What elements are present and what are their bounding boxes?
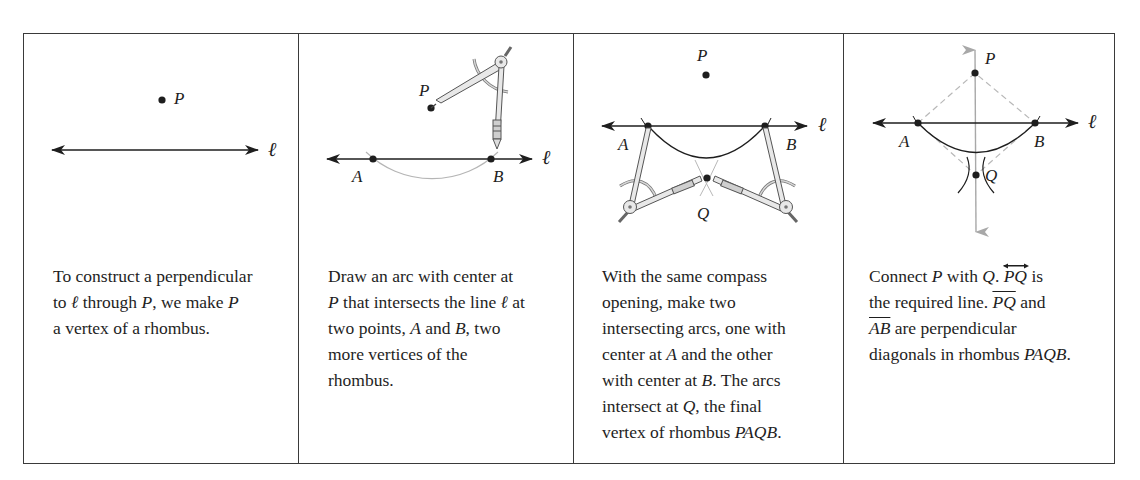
label-q: Q bbox=[697, 204, 709, 223]
caption-text: center at bbox=[602, 344, 666, 364]
panel-4-diagram: ℓ P A B Q bbox=[873, 49, 1097, 232]
caption-text: , the final bbox=[695, 396, 762, 416]
caption-symbol: P bbox=[228, 292, 239, 312]
point-a bbox=[914, 119, 921, 126]
arc-from-p bbox=[920, 125, 1033, 153]
label-b: B bbox=[786, 135, 797, 154]
caption-text: diagonals in rhombus bbox=[869, 344, 1024, 364]
label-b: B bbox=[1034, 132, 1045, 151]
label-line-l: ℓ bbox=[1088, 110, 1097, 132]
point-p bbox=[158, 96, 165, 103]
caption-text: , two bbox=[466, 318, 501, 338]
caption-text: Connect bbox=[869, 266, 932, 286]
caption-symbol: Q bbox=[683, 396, 696, 416]
caption-symbol: B bbox=[702, 370, 713, 390]
caption-step-2: Draw an arc with center at P that inters… bbox=[328, 263, 573, 393]
caption-text: and bbox=[421, 318, 455, 338]
label-a: A bbox=[898, 132, 910, 151]
point-q bbox=[972, 171, 979, 178]
caption-text: , we make bbox=[152, 292, 228, 312]
caption-text: intersecting arcs, one with bbox=[602, 318, 786, 338]
caption-text: with center at bbox=[602, 370, 702, 390]
caption-text: with bbox=[942, 266, 982, 286]
panel-3-diagram: P ℓ A B Q bbox=[602, 46, 827, 223]
caption-text: to bbox=[53, 292, 71, 312]
caption-text: that intersects the line bbox=[339, 292, 501, 312]
caption-text: a vertex of a rhombus. bbox=[53, 318, 210, 338]
caption-symbol: PAQB bbox=[735, 422, 777, 442]
perpendicular-line-pq bbox=[975, 50, 976, 232]
caption-text: Draw an arc with center at bbox=[328, 266, 513, 286]
caption-line-pq: PQ bbox=[1004, 266, 1027, 286]
caption-symbol: A bbox=[410, 318, 421, 338]
line-arrow-overline-icon bbox=[1003, 262, 1029, 270]
caption-text: are perpendicular bbox=[890, 318, 1016, 338]
caption-text: more vertices of the bbox=[328, 344, 467, 364]
caption-step-1: To construct a perpendicular to ℓ throug… bbox=[53, 263, 293, 341]
caption-text: rhombus. bbox=[328, 370, 394, 390]
label-b: B bbox=[493, 167, 504, 186]
caption-symbol: P bbox=[328, 292, 339, 312]
label-a: A bbox=[617, 135, 629, 154]
arc-from-p bbox=[650, 128, 763, 158]
rhombus-paqb bbox=[918, 73, 1035, 175]
compass-icon-left bbox=[619, 128, 702, 222]
label-line-l: ℓ bbox=[268, 138, 277, 160]
label-p: P bbox=[696, 46, 707, 65]
caption-text: and bbox=[1016, 292, 1046, 312]
label-a: A bbox=[351, 167, 363, 186]
caption-text: To construct a perpendicular bbox=[53, 266, 252, 286]
caption-text: and the other bbox=[677, 344, 773, 364]
caption-step-4: Connect P with Q. PQ is the required lin… bbox=[869, 263, 1114, 367]
caption-symbol: P bbox=[932, 266, 943, 286]
panel-1-diagram: P ℓ bbox=[52, 89, 277, 160]
caption-text: With the same compass bbox=[602, 266, 767, 286]
caption-symbol: PAQB bbox=[1024, 344, 1066, 364]
label-p: P bbox=[984, 49, 995, 68]
caption-symbol: P bbox=[142, 292, 153, 312]
caption-text: through bbox=[78, 292, 141, 312]
point-b bbox=[487, 155, 494, 162]
caption-symbol: B bbox=[455, 318, 466, 338]
panel-2-diagram: ℓ A B P bbox=[327, 47, 551, 186]
point-p bbox=[971, 69, 978, 76]
label-p: P bbox=[173, 89, 184, 108]
caption-symbol: A bbox=[666, 344, 677, 364]
caption-text: two points, bbox=[328, 318, 410, 338]
caption-text: at bbox=[508, 292, 525, 312]
point-b bbox=[1031, 119, 1038, 126]
caption-text: . bbox=[1067, 344, 1071, 364]
construction-diagrams: P ℓ ℓ A B P bbox=[0, 0, 1140, 480]
compass-icon bbox=[431, 47, 511, 149]
caption-text: opening, make two bbox=[602, 292, 736, 312]
point-p bbox=[702, 71, 709, 78]
point-a bbox=[369, 155, 376, 162]
label-q: Q bbox=[985, 166, 997, 185]
caption-text: the required line. bbox=[869, 292, 992, 312]
compass-icon-right bbox=[713, 128, 797, 222]
caption-text: is bbox=[1027, 266, 1043, 286]
caption-step-3: With the same compass opening, make two … bbox=[602, 263, 842, 445]
caption-text: . bbox=[777, 422, 781, 442]
label-line-l: ℓ bbox=[542, 146, 551, 168]
caption-segment-ab: AB bbox=[869, 318, 890, 338]
caption-symbol: Q bbox=[982, 266, 995, 286]
point-q bbox=[703, 174, 710, 181]
caption-segment-pq: PQ bbox=[992, 292, 1015, 312]
label-line-l: ℓ bbox=[818, 113, 827, 135]
label-p: P bbox=[418, 81, 429, 100]
caption-symbol: ℓ bbox=[501, 292, 508, 312]
arc-from-p bbox=[366, 152, 498, 179]
caption-text: vertex of rhombus bbox=[602, 422, 735, 442]
caption-text: intersect at bbox=[602, 396, 683, 416]
caption-text: . The arcs bbox=[712, 370, 780, 390]
